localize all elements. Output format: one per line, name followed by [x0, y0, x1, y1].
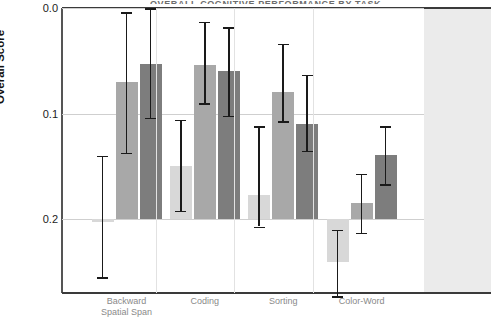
error-bar-cap: [302, 151, 313, 153]
error-bar-cap: [175, 211, 186, 213]
y-axis-ticks: 0.20.10.0: [0, 8, 58, 293]
error-bar: [306, 75, 308, 151]
error-bar-cap: [145, 8, 156, 10]
gridline-x: [313, 8, 314, 293]
error-bar: [258, 126, 260, 226]
error-bar-cap: [223, 116, 234, 118]
error-bar: [204, 22, 206, 103]
error-bar-cap: [278, 44, 289, 46]
error-bar-cap: [332, 230, 343, 232]
error-bar: [282, 44, 284, 121]
error-bar-cap: [380, 184, 391, 186]
chart-title-clipped: OVERALL COGNITIVE PERFORMANCE BY TASK: [150, 0, 412, 4]
error-bar-cap: [254, 126, 265, 128]
chart-canvas: OVERALL COGNITIVE PERFORMANCE BY TASK Ov…: [0, 0, 491, 318]
error-bar-cap: [199, 22, 210, 24]
x-tick-label: Color-Word: [312, 296, 412, 307]
gridline-y: [62, 8, 424, 9]
error-bar: [361, 174, 363, 233]
legend-panel: [424, 8, 491, 293]
error-bar-cap: [97, 156, 108, 158]
error-bar: [102, 156, 104, 277]
y-tick-label: 0.2: [43, 213, 58, 225]
error-bar-cap: [175, 120, 186, 122]
error-bar-cap: [356, 233, 367, 235]
error-bar-cap: [199, 103, 210, 105]
error-bar-cap: [223, 27, 234, 29]
error-bar-cap: [121, 12, 132, 14]
error-bar: [228, 27, 230, 116]
y-tick-label: 0.1: [43, 108, 58, 120]
error-bar: [337, 230, 339, 297]
error-bar-cap: [254, 227, 265, 229]
error-bar-cap: [380, 126, 391, 128]
gridline-x: [156, 8, 157, 293]
plot-area: [62, 8, 424, 293]
error-bar: [385, 126, 387, 184]
gridline-x: [234, 8, 235, 293]
error-bar-cap: [97, 277, 108, 279]
y-tick-label: 0.0: [43, 2, 58, 14]
error-bar: [180, 120, 182, 211]
error-bar-cap: [145, 118, 156, 120]
error-bar: [150, 8, 152, 118]
error-bar-cap: [356, 174, 367, 176]
error-bar-cap: [302, 75, 313, 77]
gridline-y: [62, 219, 424, 220]
error-bar: [126, 12, 128, 152]
error-bar-cap: [121, 153, 132, 155]
error-bar-cap: [278, 121, 289, 123]
